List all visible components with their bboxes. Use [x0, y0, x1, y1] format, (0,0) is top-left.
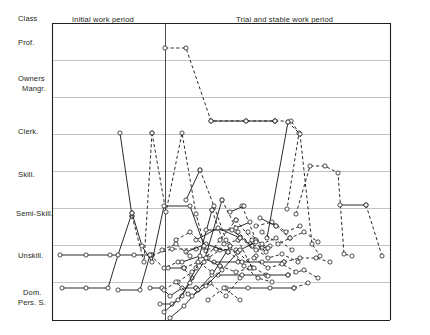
data-point-marker — [328, 260, 332, 264]
data-point-marker — [162, 204, 166, 208]
data-point-marker — [254, 224, 258, 228]
data-point-marker — [168, 294, 172, 298]
data-point-marker — [210, 270, 214, 274]
data-point-marker — [166, 266, 170, 270]
data-point-marker — [288, 236, 292, 240]
data-point-marker — [240, 273, 244, 277]
data-point-marker — [148, 253, 152, 257]
trajectory-line — [288, 122, 320, 256]
data-point-marker — [188, 254, 192, 258]
data-point-marker — [186, 292, 190, 296]
data-point-marker — [182, 304, 186, 308]
data-point-marker — [248, 220, 252, 224]
data-point-marker — [198, 168, 202, 172]
data-point-marker — [160, 248, 164, 252]
data-point-marker — [188, 204, 192, 208]
data-point-marker — [302, 268, 306, 272]
data-point-marker — [364, 203, 368, 207]
chart-root: Initial work period Trial and stable wor… — [0, 0, 430, 335]
data-point-marker — [318, 254, 322, 258]
data-point-marker — [116, 253, 120, 257]
data-point-marker — [280, 252, 284, 256]
data-point-marker — [286, 120, 290, 124]
data-point-marker — [238, 236, 242, 240]
data-point-marker — [140, 244, 144, 248]
data-point-marker — [310, 242, 314, 246]
data-point-marker — [220, 198, 224, 202]
data-point-marker — [230, 228, 234, 232]
data-point-marker — [182, 266, 186, 270]
data-point-marker — [270, 280, 274, 284]
data-point-marker — [148, 286, 152, 290]
trajectory-line — [284, 258, 330, 262]
data-point-marker — [266, 256, 270, 260]
data-point-marker — [234, 226, 238, 230]
data-point-marker — [280, 262, 284, 266]
data-point-marker — [254, 240, 258, 244]
data-point-marker — [116, 288, 120, 292]
data-point-marker — [294, 270, 298, 274]
data-point-marker — [222, 242, 226, 246]
data-point-marker — [260, 260, 264, 264]
data-point-marker — [350, 254, 354, 258]
data-point-marker — [246, 230, 250, 234]
data-point-marker — [285, 207, 289, 211]
data-point-marker — [168, 316, 172, 320]
data-point-marker — [204, 284, 208, 288]
data-point-marker — [138, 288, 142, 292]
data-point-marker — [302, 230, 306, 234]
data-point-marker — [204, 256, 208, 260]
data-point-marker — [220, 268, 224, 272]
data-point-marker — [222, 286, 226, 290]
data-point-marker — [188, 230, 192, 234]
trajectory-line — [296, 166, 352, 256]
data-point-marker — [290, 248, 294, 252]
data-point-marker — [298, 224, 302, 228]
chart-plot — [0, 0, 430, 335]
data-point-marker — [254, 248, 258, 252]
data-point-marker — [206, 298, 210, 302]
data-point-marker — [170, 247, 174, 251]
data-point-marker — [252, 256, 256, 260]
data-point-marker — [248, 266, 252, 270]
data-point-marker — [84, 286, 88, 290]
data-point-marker — [342, 252, 346, 256]
data-point-marker — [260, 230, 264, 234]
data-point-marker — [296, 260, 300, 264]
data-point-marker — [274, 224, 278, 228]
data-point-marker — [264, 250, 268, 254]
data-point-marker — [240, 260, 244, 264]
data-point-marker — [130, 211, 134, 215]
data-point-marker — [224, 238, 228, 242]
data-point-marker — [190, 294, 194, 298]
data-point-marker — [162, 266, 166, 270]
data-point-marker — [84, 253, 88, 257]
data-point-marker — [338, 203, 342, 207]
trajectory-line — [132, 133, 152, 262]
data-point-marker — [268, 286, 272, 290]
data-point-marker — [306, 281, 310, 285]
data-point-marker — [218, 264, 222, 268]
data-point-marker — [224, 294, 228, 298]
data-point-marker — [256, 276, 260, 280]
trajectory-line — [366, 205, 382, 256]
trajectory-line — [196, 278, 240, 296]
trajectory-line — [165, 48, 275, 121]
data-point-marker — [209, 119, 213, 123]
data-point-marker — [188, 281, 192, 285]
data-point-marker — [198, 254, 202, 258]
data-point-marker — [162, 288, 166, 292]
data-point-marker — [184, 46, 188, 50]
trajectory-line — [62, 213, 132, 288]
data-point-marker — [196, 260, 200, 264]
data-point-marker — [380, 254, 384, 258]
data-point-marker — [216, 226, 220, 230]
data-point-marker — [228, 210, 232, 214]
data-point-marker — [276, 242, 280, 246]
data-point-marker — [158, 302, 162, 306]
data-point-marker — [163, 46, 167, 50]
data-point-marker — [238, 298, 242, 302]
data-point-marker — [106, 286, 110, 290]
data-point-marker — [174, 242, 178, 246]
data-point-marker — [60, 286, 64, 290]
